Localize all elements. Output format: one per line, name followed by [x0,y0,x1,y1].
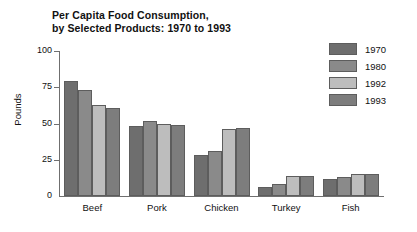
bar-turkey-1992 [286,176,300,196]
bar-fish-1992 [351,174,365,196]
y-tick-label: 0 [26,191,52,200]
bar-turkey-1980 [272,184,286,196]
legend-label-1970: 1970 [365,44,386,55]
y-tick-label-group: 0255075100 [22,0,52,232]
bar-group-pork [129,51,185,196]
bar-turkey-1970 [258,187,272,196]
legend-swatch-1970 [329,43,357,55]
bar-fish-1970 [323,179,337,196]
legend-swatch-1993 [329,94,357,106]
bar-pork-1992 [157,124,171,197]
chart-title-line-1: Per Capita Food Consumption, [52,9,332,22]
category-label-turkey: Turkey [251,202,321,213]
category-label-pork: Pork [122,202,192,213]
bar-chicken-1970 [194,155,208,196]
y-axis-title: Pounds [12,87,23,133]
chart-title: Per Capita Food Consumption, by Selected… [52,9,332,35]
category-label-beef: Beef [57,202,127,213]
bar-chicken-1993 [236,128,250,196]
category-label-chicken: Chicken [187,202,257,213]
y-tick-label: 50 [26,119,52,128]
bar-pork-1970 [129,126,143,196]
bar-beef-1970 [64,81,78,196]
bar-group-turkey [258,51,314,196]
legend-swatch-1980 [329,60,357,72]
plot-area [60,51,383,196]
bar-fish-1993 [365,174,379,196]
legend-label-1992: 1992 [365,78,386,89]
category-label-fish: Fish [316,202,386,213]
x-axis-line [59,196,384,197]
bar-fish-1980 [337,177,351,196]
bar-beef-1993 [106,108,120,196]
bar-chicken-1992 [222,129,236,196]
bar-turkey-1993 [300,176,314,196]
bar-pork-1993 [171,125,185,196]
bar-chart: Per Capita Food Consumption, by Selected… [0,0,417,232]
y-tick-label: 75 [26,82,52,91]
bar-pork-1980 [143,121,157,196]
bar-beef-1992 [92,105,106,196]
y-tick-label: 100 [26,46,52,55]
bar-group-fish [323,51,379,196]
bar-beef-1980 [78,90,92,196]
legend-swatch-1992 [329,77,357,89]
y-tick-label: 25 [26,155,52,164]
bar-group-beef [64,51,120,196]
chart-title-line-2: by Selected Products: 1970 to 1993 [52,22,332,35]
legend-label-1993: 1993 [365,95,386,106]
legend-label-1980: 1980 [365,61,386,72]
bar-chicken-1980 [208,151,222,196]
bar-group-chicken [194,51,250,196]
